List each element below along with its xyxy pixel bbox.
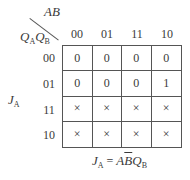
cell-r1-c3: 1 (152, 71, 182, 96)
cell-r3-c3: × (152, 122, 182, 147)
cell-r0-c0: 0 (63, 46, 93, 71)
cell-r0-c2: 0 (122, 46, 152, 71)
cell-r1-c1: 0 (93, 71, 123, 96)
cell-r2-c2: × (122, 97, 152, 122)
cell-r1-c2: 0 (122, 71, 152, 96)
column-variable-label: AB (44, 4, 60, 20)
cell-r0-c3: 0 (152, 46, 182, 71)
col-header-00: 00 (62, 27, 92, 42)
col-header-11: 11 (122, 27, 152, 42)
cell-r3-c2: × (122, 122, 152, 147)
cell-r1-c0: 0 (63, 71, 93, 96)
cell-r2-c1: × (93, 97, 123, 122)
cell-r2-c0: × (63, 97, 93, 122)
col-header-10: 10 (152, 27, 182, 42)
row-header-01: 01 (38, 77, 60, 92)
kmap-grid: 0 0 0 0 0 0 0 1 × × × × × × × × (62, 45, 182, 148)
cell-r0-c1: 0 (93, 46, 123, 71)
row-variable-label: QAQB (20, 29, 50, 46)
cell-r3-c1: × (93, 122, 123, 147)
row-header-11: 11 (38, 103, 60, 118)
cell-r3-c0: × (63, 122, 93, 147)
cell-r2-c3: × (152, 97, 182, 122)
function-label: JA (8, 92, 20, 109)
row-header-10: 10 (38, 128, 60, 143)
row-header-00: 00 (38, 51, 60, 66)
col-header-01: 01 (92, 27, 122, 42)
equation: JA = ABQB (92, 153, 147, 170)
